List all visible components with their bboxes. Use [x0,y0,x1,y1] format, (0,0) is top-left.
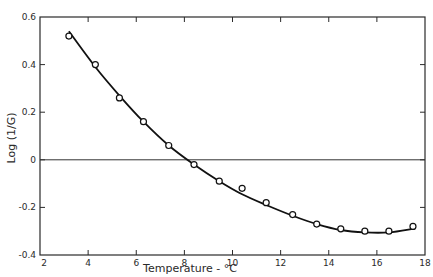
data-point-marker [410,223,416,229]
data-point-marker [239,185,245,191]
y-tick-label: 0.4 [22,60,37,70]
data-point-marker [338,226,344,232]
x-tick-label: 6 [133,258,139,268]
y-tick-label: -0.4 [18,250,36,260]
x-axis-title: Temperature - °C [142,262,237,275]
chart-plot: 24681012141618 -0.4-0.200.20.40.6 Temper… [0,0,433,277]
data-point-marker [116,95,122,101]
y-tick-label: -0.2 [18,202,36,212]
x-tick-label: 16 [371,258,383,268]
x-tick-label: 4 [85,258,91,268]
y-axis-ticks: -0.4-0.200.20.40.6 [18,12,425,260]
y-tick-label: 0 [30,155,36,165]
data-point-marker [166,143,172,149]
y-tick-label: 0.6 [22,12,37,22]
x-axis-ticks: 24681012141618 [41,17,431,268]
data-point-marker [66,33,72,39]
y-axis-title: Log (1/G) [5,113,18,164]
data-point-marker [263,200,269,206]
fitted-curve [69,31,413,232]
data-point-marker [386,228,392,234]
data-point-marker [92,62,98,68]
data-point-marker [140,119,146,125]
data-point-marker [290,212,296,218]
data-point-marker [314,221,320,227]
data-point-marker [216,178,222,184]
x-tick-label: 14 [323,258,335,268]
plot-frame [40,17,425,255]
x-tick-label: 12 [275,258,286,268]
data-point-marker [362,228,368,234]
data-points [66,33,416,234]
plot-border [40,17,425,255]
x-tick-label: 18 [419,258,431,268]
y-tick-label: 0.2 [22,107,36,117]
data-point-marker [191,162,197,168]
x-tick-label: 2 [41,258,47,268]
